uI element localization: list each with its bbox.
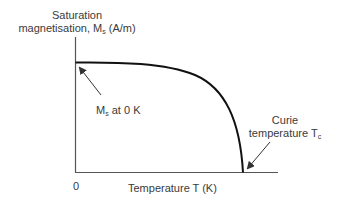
curie-sub: c (318, 133, 322, 140)
y-label-prefix: magnetisation, M (18, 22, 102, 34)
ms-suffix: at 0 K (109, 104, 141, 116)
y-label-suffix: (A/m) (106, 22, 136, 34)
ms-at-0k-label: Ms at 0 K (96, 104, 140, 120)
curie-line2: temperature Tc (245, 127, 325, 143)
origin-tick-label: 0 (73, 180, 79, 193)
y-axis-label: Saturation magnetisation, Ms (A/m) (17, 9, 137, 38)
curie-label: Curie temperature Tc (245, 114, 325, 143)
curie-line1: Curie (245, 114, 325, 127)
y-axis-label-line1: Saturation (17, 9, 137, 22)
ms-prefix: M (96, 104, 105, 116)
curie-arrow (248, 142, 270, 168)
curie-prefix: temperature T (249, 127, 318, 139)
ms-arrow (80, 68, 101, 95)
y-axis-label-line2: magnetisation, Ms (A/m) (17, 22, 137, 38)
x-axis-label: Temperature T (K) (128, 182, 217, 195)
